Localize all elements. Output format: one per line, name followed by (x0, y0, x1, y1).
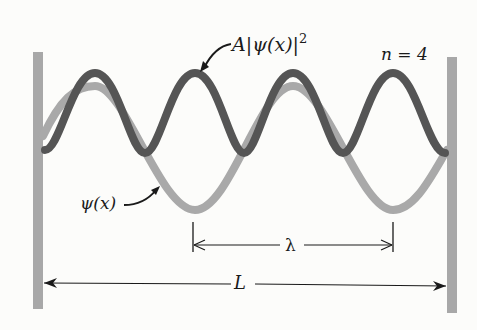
standing-wave-diagram: A|ψ(x)|2 n = 4 ψ(x) λ L (0, 0, 477, 330)
probability-density-label: A|ψ(x)|2 (232, 32, 307, 54)
length-line-left (44, 283, 231, 284)
length-label: L (234, 274, 246, 292)
prob-psi: ψ(x) (252, 33, 292, 55)
wavelength-label: λ (285, 237, 296, 254)
wavefunction-curve (43, 86, 447, 210)
psi-pointer-arrow (124, 190, 156, 205)
prob-A: A (232, 33, 246, 55)
density-pointer-arrow (204, 44, 231, 68)
prob-exponent: 2 (299, 31, 307, 46)
right-wall (447, 57, 457, 313)
length-line-right (255, 284, 446, 286)
quantum-number-label: n = 4 (381, 46, 428, 63)
left-wall (33, 52, 43, 309)
wavefunction-label: ψ(x) (80, 195, 116, 212)
